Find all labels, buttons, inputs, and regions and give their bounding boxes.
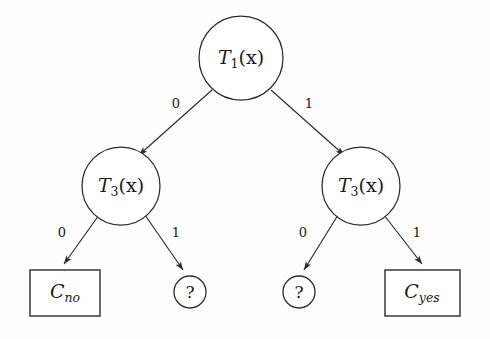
edge-label-root-left: 0	[172, 96, 180, 111]
leaf-no-symbol: C	[50, 280, 65, 302]
node-unknown-right-label: ?	[294, 282, 303, 302]
edge-label-right-internal-left: 0	[299, 225, 307, 240]
tree-canvas: 0 1 0 1 0 1 T1(x) T3(x) T3(x) Cno Cyes	[0, 0, 490, 339]
edge-left-internal-to-unknown-left	[145, 215, 183, 270]
node-root-label: T1(x)	[218, 46, 264, 71]
leaf-no-subscript: no	[64, 290, 80, 305]
node-left-internal-subscript: 3	[111, 184, 119, 199]
node-root-subscript: 1	[231, 56, 239, 71]
edge-label-right-internal-right: 1	[413, 225, 421, 240]
leaf-yes-symbol: C	[404, 280, 419, 302]
node-unknown-left-label: ?	[185, 282, 194, 302]
leaf-yes-subscript: yes	[418, 290, 440, 305]
node-left-internal-label: T3(x)	[98, 174, 144, 199]
decision-tree-diagram: 0 1 0 1 0 1 T1(x) T3(x) T3(x) Cno Cyes	[0, 0, 490, 339]
node-right-internal-argument: (x)	[359, 174, 385, 196]
node-right-internal-label: T3(x)	[338, 174, 384, 199]
edge-label-root-right: 1	[305, 96, 313, 111]
edge-right-internal-to-unknown-right	[304, 215, 338, 270]
node-left-internal-argument: (x)	[119, 174, 145, 196]
edge-label-left-internal-left: 0	[58, 225, 66, 240]
node-root-argument: (x)	[239, 46, 265, 68]
edge-left-internal-to-leaf-no	[64, 215, 99, 264]
edge-label-left-internal-right: 1	[172, 225, 180, 240]
edge-right-internal-to-leaf-yes	[384, 215, 422, 264]
node-right-internal-subscript: 3	[351, 184, 359, 199]
